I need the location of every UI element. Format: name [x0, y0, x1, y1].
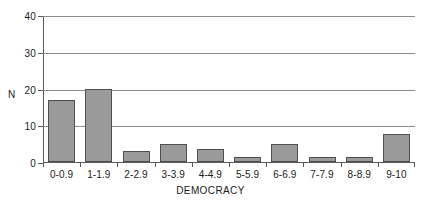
- x-tick-mark: [192, 163, 193, 167]
- y-tick-label: 0: [30, 158, 36, 169]
- y-tick-mark: [38, 16, 43, 17]
- x-tick-mark: [303, 163, 304, 167]
- x-tick-label: 7-7.9: [310, 169, 333, 180]
- x-tick-mark: [266, 163, 267, 167]
- bar: [383, 134, 410, 162]
- bar: [309, 157, 336, 163]
- x-tick-mark: [117, 163, 118, 167]
- x-tick-label: 4-4.9: [199, 169, 222, 180]
- x-tick-label: 9-10: [386, 169, 406, 180]
- y-axis-label: N: [8, 89, 15, 100]
- x-tick-label: 8-8.9: [348, 169, 371, 180]
- x-tick-label: 0-0.9: [50, 169, 73, 180]
- bar: [160, 144, 187, 162]
- x-tick-mark: [341, 163, 342, 167]
- gridline: [43, 53, 415, 54]
- x-tick-label: 3-3.9: [162, 169, 185, 180]
- x-tick-mark: [378, 163, 379, 167]
- x-tick-label: 1-1.9: [87, 169, 110, 180]
- bar-chart: N 010203040 0-0.91-1.92-2.93-3.94-4.95-5…: [0, 0, 421, 207]
- x-tick-label: 2-2.9: [124, 169, 147, 180]
- y-tick-label: 40: [24, 11, 36, 22]
- bar: [346, 157, 373, 162]
- x-axis-tick-labels: 0-0.91-1.92-2.93-3.94-4.95-5.96-6.97-7.9…: [43, 169, 415, 183]
- x-axis-label: DEMOCRACY: [0, 185, 421, 196]
- y-tick-mark: [38, 53, 43, 54]
- bar: [271, 144, 298, 162]
- bar: [85, 89, 112, 163]
- bar: [197, 149, 224, 162]
- bar: [234, 157, 261, 163]
- y-tick-label: 20: [24, 84, 36, 95]
- gridline: [43, 16, 415, 17]
- x-tick-mark: [80, 163, 81, 167]
- x-tick-mark: [229, 163, 230, 167]
- plot-area: 010203040: [43, 16, 415, 163]
- y-tick-mark: [38, 90, 43, 91]
- y-tick-mark: [38, 126, 43, 127]
- y-tick-label: 30: [24, 47, 36, 58]
- x-tick-mark: [155, 163, 156, 167]
- y-tick-label: 10: [24, 121, 36, 132]
- x-tick-label: 6-6.9: [273, 169, 296, 180]
- x-tick-mark: [43, 163, 44, 167]
- x-tick-mark: [414, 163, 415, 167]
- x-tick-label: 5-5.9: [236, 169, 259, 180]
- x-axis-ticks: [43, 163, 415, 168]
- bar: [123, 151, 150, 162]
- bar: [48, 100, 75, 162]
